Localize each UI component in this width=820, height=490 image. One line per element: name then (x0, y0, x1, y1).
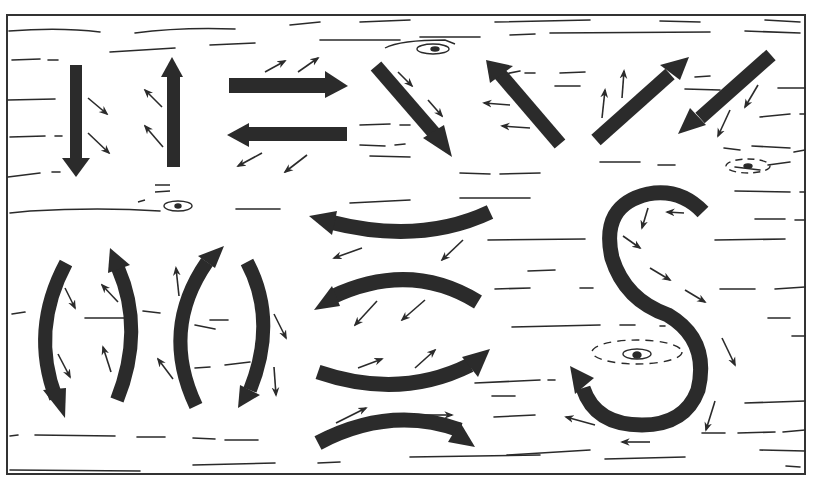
arrow-up-left-icon (486, 60, 560, 144)
wood-grain-diagram (0, 0, 820, 490)
arrow-right-icon (229, 71, 348, 98)
arrow-s-curve-icon (570, 193, 703, 425)
arrow-curve-down-right-icon (238, 262, 263, 408)
arrow-curve-down-left-icon (43, 263, 66, 418)
diagram-canvas (0, 0, 820, 490)
arrow-down-icon (62, 65, 90, 177)
arrow-arc-left-down-icon (314, 280, 478, 310)
arrow-arc-right-down-icon (318, 420, 475, 447)
arrow-up-icon (161, 57, 183, 167)
arrow-curve-up-right-icon (108, 248, 131, 400)
arrow-up-right-icon (596, 57, 689, 140)
arrow-arc-left-up-icon (309, 211, 490, 235)
arrow-arc-right-up-icon (318, 349, 490, 384)
arrow-left-icon (227, 123, 347, 147)
arrow-down-right-icon (376, 66, 452, 157)
